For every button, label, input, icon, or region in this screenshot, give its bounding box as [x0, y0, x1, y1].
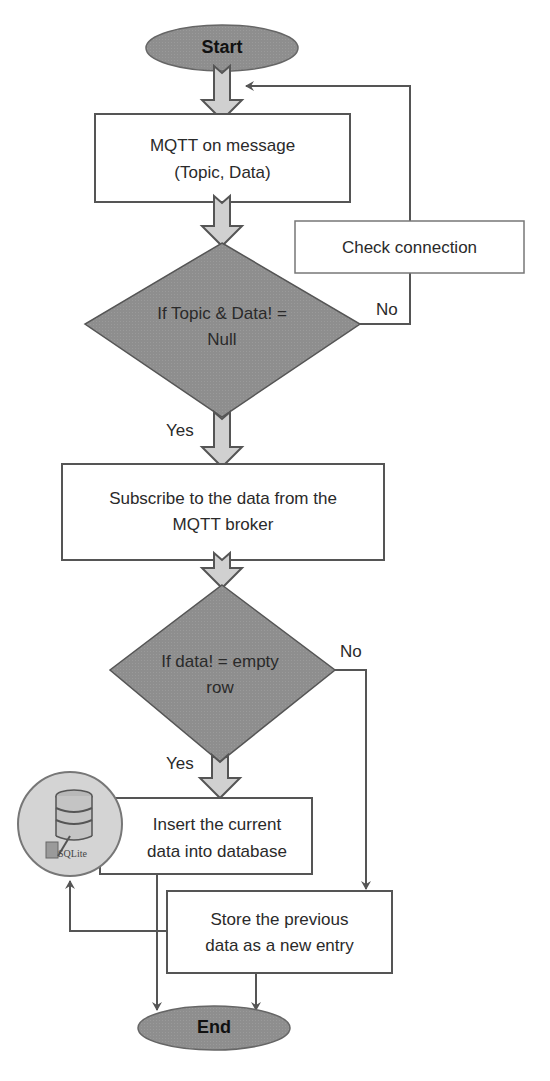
store-to-sqlite-connector [70, 881, 167, 931]
decision2-no-connector [335, 670, 366, 889]
store-previous-box [167, 891, 392, 973]
sqlite-database-icon [18, 772, 122, 876]
decision1-label-line2: Null [100, 328, 344, 351]
subscribe-label-line1: Subscribe to the data from the [62, 487, 384, 510]
block-arrow-3 [202, 412, 242, 467]
block-arrow-1 [202, 66, 242, 120]
mqtt-label-line1: MQTT on message [95, 134, 350, 157]
sqlite-icon-label: SQLite [58, 848, 87, 859]
decision1-yes-label: Yes [166, 421, 194, 441]
decision1-no-label: No [376, 300, 398, 320]
block-arrow-5 [200, 755, 240, 798]
decision2-label-line1: If data! = empty [120, 650, 320, 673]
insert-label-line2: data into database [122, 840, 312, 863]
decision1-label-line1: If Topic & Data! = [100, 302, 344, 325]
store-label-line2: data as a new entry [167, 934, 392, 957]
store-label-line1: Store the previous [167, 908, 392, 931]
subscribe-label-line2: MQTT broker [62, 513, 384, 536]
block-arrow-2 [202, 196, 242, 246]
mqtt-label-line2: (Topic, Data) [95, 161, 350, 184]
insert-label-line1: Insert the current [122, 813, 312, 836]
decision2-label-line2: row [120, 676, 320, 699]
check-connection-label: Check connection [295, 236, 524, 259]
decision2-no-label: No [340, 642, 362, 662]
mqtt-on-message-box [95, 114, 350, 202]
decision-empty-row [110, 585, 335, 762]
decision2-yes-label: Yes [166, 754, 194, 774]
subscribe-box [62, 464, 384, 560]
end-label: End [164, 1016, 264, 1039]
start-label: Start [172, 36, 272, 59]
